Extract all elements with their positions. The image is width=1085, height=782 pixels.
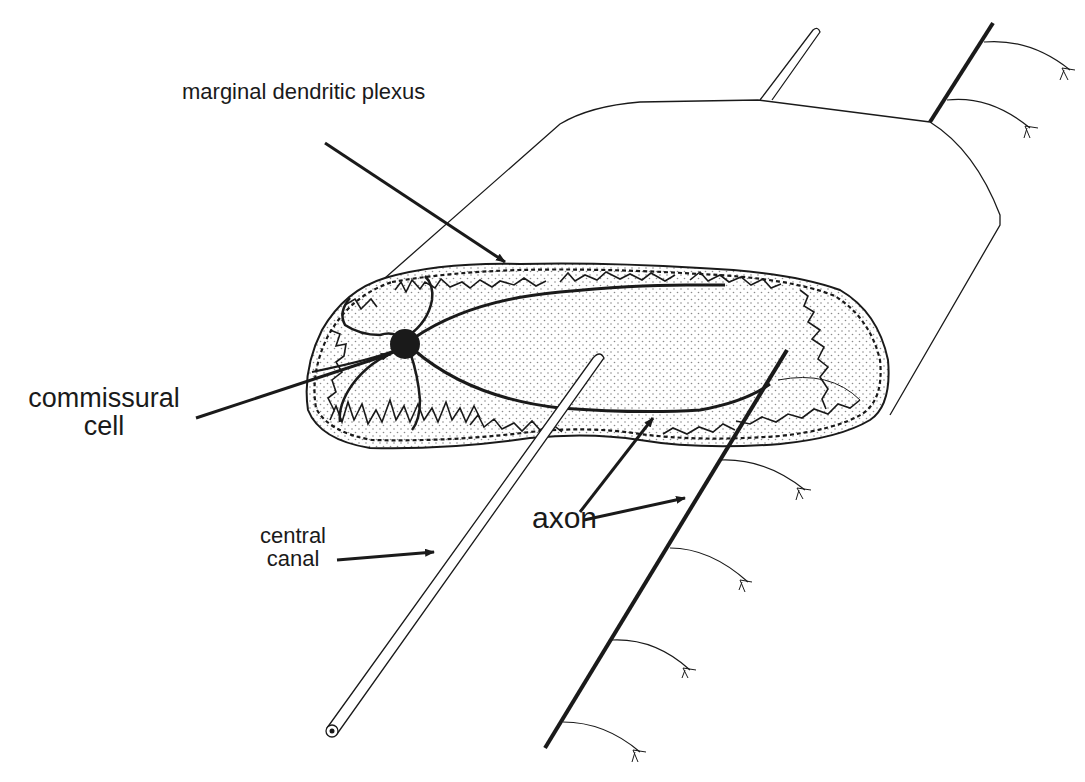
label-central-canal: central canal [253, 524, 333, 570]
axon-far-segment [930, 23, 1075, 138]
canal-pointer-arrow [337, 552, 434, 560]
plexus-pointer-arrow [325, 143, 505, 262]
label-commissural-line2: cell [24, 412, 184, 440]
label-commissural-line1: commissural [24, 384, 184, 412]
label-commissural-cell: commissural cell [24, 384, 184, 441]
label-canal-line2: canal [253, 547, 333, 570]
axon-pointer-arrow-2 [584, 498, 685, 520]
commissural-cell-body [390, 329, 420, 359]
central-canal-far-segment [760, 28, 820, 100]
label-marginal-dendritic-plexus: marginal dendritic plexus [182, 80, 425, 103]
label-axon: axon [532, 502, 597, 534]
label-canal-line1: central [253, 524, 333, 547]
